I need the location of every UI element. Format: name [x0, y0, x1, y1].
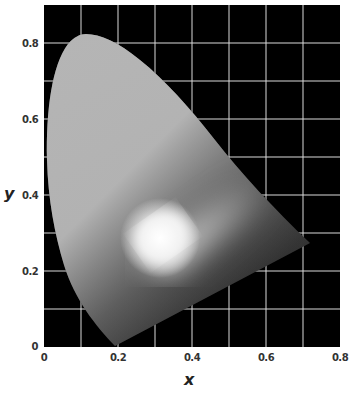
y-tick-0: 0	[22, 341, 38, 352]
chromaticity-chart	[0, 0, 350, 396]
x-tick-0.6: 0.6	[258, 352, 274, 363]
y-tick-0.6: 0.6	[22, 114, 38, 125]
x-tick-0.4: 0.4	[184, 352, 200, 363]
x-axis-label: x	[184, 370, 194, 389]
x-tick-0.2: 0.2	[110, 352, 126, 363]
x-tick-0.8: 0.8	[332, 352, 348, 363]
y-axis-label: y	[4, 184, 14, 203]
gamut-region	[40, 30, 330, 350]
y-tick-0.4: 0.4	[22, 190, 38, 201]
y-tick-0.8: 0.8	[22, 38, 38, 49]
x-tick-0: 0	[41, 352, 47, 363]
y-tick-0.2: 0.2	[22, 266, 38, 277]
